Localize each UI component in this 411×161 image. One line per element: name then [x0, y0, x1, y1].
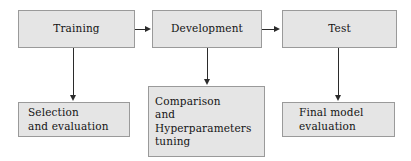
arrow-shaft-icon	[338, 48, 339, 96]
node-development-line-1: Development	[171, 22, 243, 36]
node-test: Test	[282, 10, 397, 48]
node-final-model-line-1: Final model	[299, 106, 364, 120]
node-comparison-line-3: Hyperparameters	[155, 122, 252, 136]
node-final-model-line-2: evaluation	[299, 120, 356, 134]
arrow-head-right-icon	[145, 26, 151, 32]
node-development: Development	[152, 10, 262, 48]
node-selection-line-2: and evaluation	[28, 120, 109, 134]
node-comparison-line-4: tuning	[155, 135, 191, 149]
arrow-head-down-icon	[70, 95, 76, 101]
node-training: Training	[18, 10, 135, 48]
node-selection-and-evaluation: Selection and evaluation	[18, 102, 130, 137]
arrow-head-down-icon	[335, 95, 341, 101]
node-comparison-and-hyperparameters-tuning: Comparison and Hyperparameters tuning	[148, 86, 265, 157]
node-test-line-1: Test	[328, 22, 351, 36]
node-training-line-1: Training	[53, 22, 99, 36]
node-final-model-evaluation: Final model evaluation	[282, 102, 395, 137]
node-comparison-line-2: and	[155, 108, 175, 122]
arrow-shaft-icon	[207, 48, 208, 80]
arrow-shaft-icon	[73, 48, 74, 96]
arrow-head-right-icon	[274, 26, 280, 32]
node-selection-line-1: Selection	[28, 106, 79, 120]
node-comparison-line-1: Comparison	[155, 95, 221, 109]
flowchart-diagram: Training Development Test Selection and …	[0, 0, 411, 161]
arrow-head-down-icon	[204, 79, 210, 85]
